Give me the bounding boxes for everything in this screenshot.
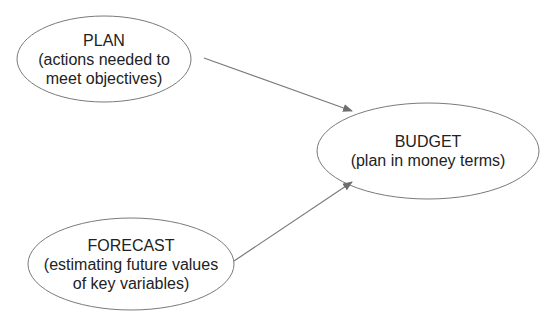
forecast-description-line-2: of key variables): [44, 274, 218, 293]
budget-description-line-1: (plan in money terms): [351, 151, 506, 170]
plan-description-line-2: meet objectives): [38, 69, 170, 88]
plan-description-line-1: (actions needed to: [38, 50, 170, 69]
edge-forecast-to-budget-arrow: [234, 182, 352, 261]
forecast-title: FORECAST: [44, 236, 218, 255]
plan-title: PLAN: [38, 31, 170, 50]
forecast-node: FORECAST (estimating future values of ke…: [44, 236, 218, 293]
budget-title: BUDGET: [351, 132, 506, 151]
budget-node: BUDGET (plan in money terms): [351, 132, 506, 170]
edge-plan-to-budget-arrow: [204, 58, 352, 111]
forecast-description-line-1: (estimating future values: [44, 255, 218, 274]
plan-node: PLAN (actions needed to meet objectives): [38, 31, 170, 88]
